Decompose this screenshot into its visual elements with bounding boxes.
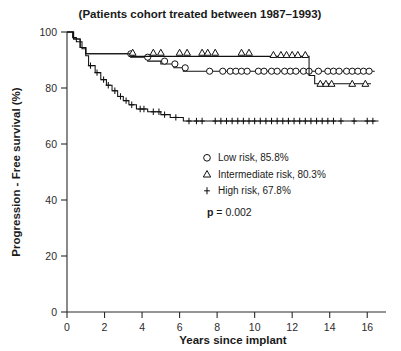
p-value-annotation: p = 0.002	[207, 206, 252, 218]
marker-circle	[244, 68, 250, 74]
chart-canvas: (Patients cohort treated between 1987–19…	[0, 0, 401, 351]
km-survival-chart: (Patients cohort treated between 1987–19…	[0, 0, 401, 351]
x-tick-label: 0	[64, 321, 70, 333]
marker-circle	[182, 65, 188, 71]
marker-circle	[261, 68, 267, 74]
x-tick-label: 14	[324, 321, 336, 333]
marker-circle	[204, 154, 211, 161]
x-tick-label: 4	[139, 321, 145, 333]
legend-label: High risk, 67.8%	[218, 185, 291, 196]
legend-label: Low risk, 85.8%	[218, 152, 289, 163]
x-tick-label: 6	[177, 321, 183, 333]
y-tick-label: 0	[51, 306, 57, 318]
x-tick-label: 12	[286, 321, 298, 333]
marker-circle	[207, 68, 213, 74]
marker-circle	[336, 68, 342, 74]
y-tick-label: 40	[45, 194, 57, 206]
y-tick-label: 60	[45, 138, 57, 150]
marker-circle	[315, 68, 321, 74]
legend-item: High risk, 67.8%	[204, 185, 291, 196]
legend-label: Intermediate risk, 80.3%	[218, 169, 326, 180]
legend-item: Intermediate risk, 80.3%	[203, 169, 326, 180]
y-tick-label: 80	[45, 82, 57, 94]
marker-circle	[161, 58, 167, 64]
y-tick-label: 100	[39, 26, 57, 38]
x-tick-label: 16	[361, 321, 373, 333]
x-tick-label: 8	[214, 321, 220, 333]
marker-circle	[172, 61, 178, 67]
marker-circle	[220, 68, 226, 74]
x-tick-label: 10	[249, 321, 261, 333]
x-axis-label: Years since implant	[179, 334, 287, 346]
marker-circle	[293, 68, 299, 74]
y-tick-label: 20	[45, 250, 57, 262]
marker-circle	[366, 68, 372, 74]
x-tick-label: 2	[102, 321, 108, 333]
marker-circle	[274, 68, 280, 74]
y-axis-label: Progression - Free survival (%)	[10, 87, 22, 257]
chart-title: (Patients cohort treated between 1987–19…	[79, 8, 322, 20]
